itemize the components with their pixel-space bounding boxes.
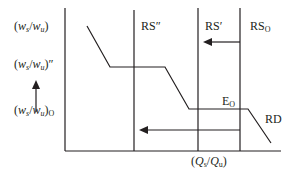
y-label-bottom-var1: w (18, 103, 26, 117)
y-label-bottom: (ws/wu)O (14, 104, 54, 118)
y-label-middle-sub2: u (41, 63, 45, 72)
rd-curve (87, 26, 271, 143)
y-label-top-sub2: u (41, 25, 45, 34)
wage-rise-arrow-head (32, 80, 40, 89)
y-label-middle-prime: ″ (49, 57, 54, 71)
y-label-middle-sub1: s (26, 63, 29, 72)
x-label-var2: Q (210, 154, 219, 168)
y-label-middle-var1: w (18, 57, 26, 71)
shift-arrow-upper-head (203, 38, 212, 46)
y-label-top-var1: w (18, 19, 26, 33)
equilibrium-label: EO (222, 95, 235, 109)
equilibrium-label-sub: O (229, 100, 235, 109)
shift-arrow-lower-head (139, 126, 148, 134)
y-label-middle: (ws/wu)″ (14, 58, 54, 72)
y-label-bottom-sub1: s (26, 109, 29, 118)
rs-double-prime-label: RS″ (141, 20, 161, 32)
x-label-sub2: u (219, 160, 223, 169)
y-label-bottom-var2: w (32, 103, 40, 117)
rs-o-label-main: RS (250, 19, 265, 33)
rs-prime-label: RS′ (205, 20, 222, 32)
rs-o-label: RSO (250, 20, 270, 34)
y-label-top-sub1: s (26, 25, 29, 34)
x-label-var1: Q (195, 154, 204, 168)
y-label-bottom-sub-o: O (49, 109, 55, 118)
y-label-top: (ws/wu) (14, 20, 49, 34)
x-label-sub1: s (204, 160, 207, 169)
rs-o-label-sub: O (265, 25, 271, 34)
y-label-bottom-sub2: u (41, 109, 45, 118)
y-label-top-var2: w (32, 19, 40, 33)
rd-label: RD (265, 113, 282, 125)
y-label-middle-var2: w (32, 57, 40, 71)
x-axis-label: (Qs/Qu) (191, 155, 227, 169)
